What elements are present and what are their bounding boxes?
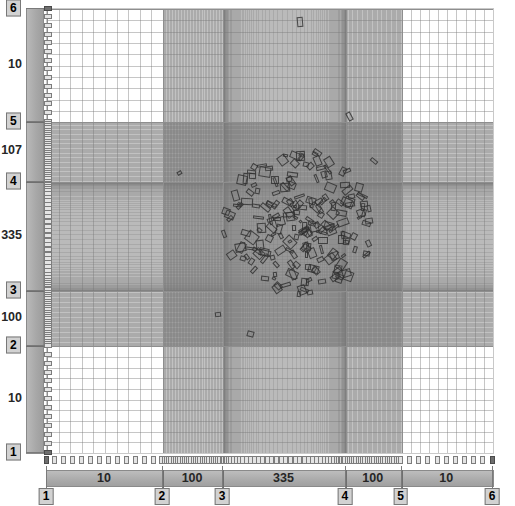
x-tick-line — [46, 466, 47, 490]
grading-node-handle[interactable] — [52, 456, 57, 464]
grading-node-handle[interactable] — [44, 456, 49, 464]
grading-node-handle[interactable] — [44, 40, 52, 45]
y-segment-count-label[interactable]: 100 — [0, 310, 22, 324]
mesh-plot-area[interactable] — [46, 8, 494, 454]
grading-node-handle[interactable] — [70, 456, 75, 464]
x-segment-count-label[interactable]: 10 — [439, 471, 453, 485]
grading-node-handle[interactable] — [44, 352, 52, 357]
grading-node-handle[interactable] — [97, 456, 102, 464]
grading-node-handle[interactable] — [44, 14, 52, 19]
grading-node-handle[interactable] — [79, 456, 84, 464]
grading-node-handle[interactable] — [435, 456, 440, 464]
x-axis-node-handles[interactable] — [46, 455, 494, 466]
y-segment-count-label[interactable]: 10 — [0, 391, 22, 405]
grading-node-handle[interactable] — [44, 49, 52, 54]
y-division-line — [47, 453, 493, 454]
building-footprint — [343, 168, 352, 175]
x-tick-line — [222, 466, 223, 490]
grading-node-handle[interactable] — [44, 361, 52, 366]
grading-node-handle[interactable] — [44, 58, 52, 63]
grading-node-handle[interactable] — [88, 456, 93, 464]
building-footprint — [272, 190, 281, 196]
x-segment-count-label[interactable]: 10 — [97, 471, 111, 485]
grading-node-handle[interactable] — [106, 456, 111, 464]
grading-node-handle[interactable] — [453, 456, 458, 464]
grading-node-handle[interactable] — [44, 405, 52, 410]
grading-node-handle[interactable] — [133, 456, 138, 464]
grading-node-handle[interactable] — [44, 414, 52, 419]
x-axis-bar[interactable] — [46, 470, 494, 487]
building-footprint — [246, 330, 254, 338]
grading-node-handle[interactable] — [480, 456, 485, 464]
grading-node-handle[interactable] — [471, 456, 476, 464]
x-tick-label[interactable]: 4 — [337, 488, 352, 505]
grading-node-handle[interactable] — [490, 456, 495, 464]
building-footprint — [326, 206, 340, 220]
building-footprint — [235, 242, 247, 253]
grading-node-handle[interactable] — [44, 441, 52, 446]
y-axis-bar[interactable] — [26, 8, 44, 454]
grading-node-handle[interactable] — [425, 456, 430, 464]
grading-node-handle[interactable] — [462, 456, 467, 464]
building-footprint — [231, 190, 241, 202]
grading-node-handle[interactable] — [124, 456, 129, 464]
grading-node-handle[interactable] — [151, 456, 156, 464]
x-tick-label[interactable]: 6 — [485, 488, 500, 505]
grading-node-handle[interactable] — [398, 456, 403, 464]
grading-node-handle[interactable] — [44, 6, 52, 11]
y-segment-count-label[interactable]: 335 — [0, 228, 22, 242]
x-tick-line — [345, 466, 346, 490]
grading-node-handle[interactable] — [407, 456, 412, 464]
grading-node-handle[interactable] — [416, 456, 421, 464]
grading-node-handle[interactable] — [142, 456, 147, 464]
grading-node-handle[interactable] — [44, 423, 52, 428]
y-tick-label[interactable]: 1 — [6, 444, 21, 461]
grading-node-handle[interactable] — [44, 450, 52, 455]
y-tick-label[interactable]: 3 — [6, 281, 21, 298]
x-division-marker — [402, 470, 403, 489]
building-footprint — [240, 198, 252, 205]
x-tick-label[interactable]: 3 — [215, 488, 230, 505]
building-footprint — [289, 249, 298, 259]
grading-node-handle[interactable] — [44, 343, 52, 348]
building-footprint — [323, 181, 336, 194]
grading-node-handle[interactable] — [61, 456, 66, 464]
grading-node-handle[interactable] — [44, 378, 52, 383]
y-tick-label[interactable]: 5 — [6, 113, 21, 130]
y-division-marker — [26, 182, 46, 183]
grading-node-handle[interactable] — [444, 456, 449, 464]
y-segment-count-label[interactable]: 10 — [0, 57, 22, 71]
y-tick-label[interactable]: 4 — [6, 173, 21, 190]
grading-node-handle[interactable] — [44, 32, 52, 37]
x-tick-line — [162, 466, 163, 490]
y-tick-label[interactable]: 6 — [6, 0, 21, 17]
x-tick-label[interactable]: 1 — [39, 488, 54, 505]
grading-node-handle[interactable] — [44, 101, 52, 106]
x-segment-count-label[interactable]: 100 — [362, 471, 383, 485]
x-tick-label[interactable]: 2 — [155, 488, 170, 505]
grading-node-handle[interactable] — [44, 110, 52, 115]
grading-node-handle[interactable] — [44, 432, 52, 437]
x-tick-label[interactable]: 5 — [393, 488, 408, 505]
grading-node-handle[interactable] — [44, 75, 52, 80]
grading-node-handle[interactable] — [44, 370, 52, 375]
building-footprint — [352, 245, 358, 253]
y-tick-label[interactable]: 2 — [6, 337, 21, 354]
y-axis-node-handles[interactable] — [44, 8, 54, 454]
x-segment-count-label[interactable]: 335 — [273, 471, 294, 485]
grading-node-handle[interactable] — [44, 387, 52, 392]
building-footprint — [285, 211, 295, 221]
grading-node-handle[interactable] — [44, 23, 52, 28]
grading-node-handle[interactable] — [44, 84, 52, 89]
building-footprint — [272, 260, 279, 268]
grading-node-handle[interactable] — [44, 93, 52, 98]
building-footprint — [242, 173, 247, 184]
x-segment-count-label[interactable]: 100 — [182, 471, 203, 485]
x-tick-line — [492, 466, 493, 490]
grading-node-handle[interactable] — [115, 456, 120, 464]
grading-node-handle[interactable] — [44, 66, 52, 71]
grading-node-handle[interactable] — [44, 396, 52, 401]
y-division-marker — [26, 291, 46, 292]
building-footprint — [273, 272, 277, 277]
y-segment-count-label[interactable]: 107 — [0, 143, 22, 157]
